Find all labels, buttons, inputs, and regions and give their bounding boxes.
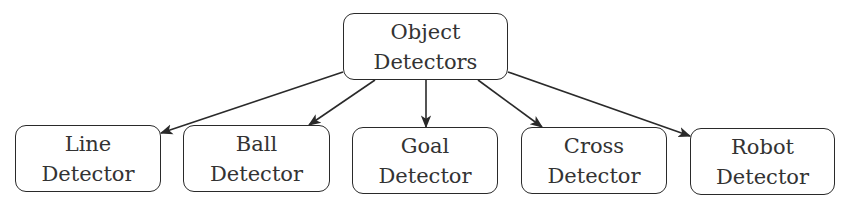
- node-label-line-1: Ball: [236, 129, 277, 159]
- node-label-line-2: Detector: [378, 161, 471, 191]
- node-label-line-2: Detector: [716, 162, 809, 192]
- node-label-line-1: Robot: [731, 132, 794, 162]
- node-object-detectors: Object Detectors: [343, 13, 508, 80]
- node-label-line-1: Object: [391, 17, 461, 47]
- edge-arrow-ball-detector: [309, 80, 375, 125]
- node-label-line-1: Cross: [564, 131, 624, 161]
- edge-arrow-line-detector: [161, 72, 343, 133]
- node-ball-detector: Ball Detector: [183, 125, 330, 192]
- node-label-line-2: Detectors: [374, 47, 478, 77]
- node-robot-detector: Robot Detector: [690, 128, 835, 195]
- node-cross-detector: Cross Detector: [521, 127, 667, 194]
- node-goal-detector: Goal Detector: [352, 127, 498, 194]
- node-label-line-2: Detector: [210, 159, 303, 189]
- node-label-line-1: Goal: [401, 131, 450, 161]
- node-label-line-1: Line: [65, 129, 112, 159]
- node-line-detector: Line Detector: [15, 125, 161, 192]
- node-label-line-2: Detector: [547, 161, 640, 191]
- edge-arrow-cross-detector: [478, 80, 542, 127]
- node-label-line-2: Detector: [41, 159, 134, 189]
